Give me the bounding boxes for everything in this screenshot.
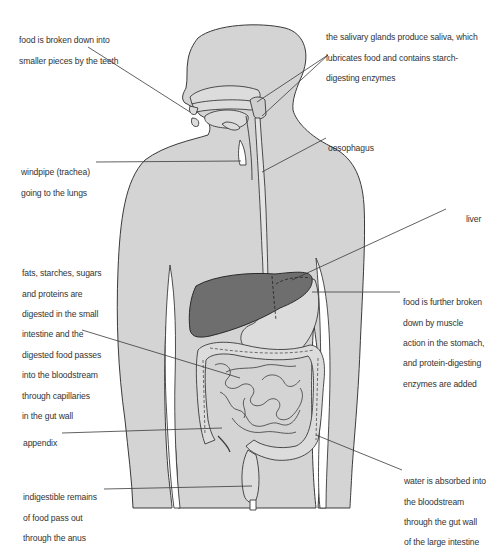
rectum xyxy=(242,450,259,502)
anal-canal xyxy=(250,500,256,510)
label-windpipe: windpipe (trachea) going to the lungs xyxy=(21,157,90,208)
label-large-intestine: water is absorbed into the bloodstream t… xyxy=(404,466,486,551)
label-oesophagus: oesophagus xyxy=(328,133,374,164)
lower-jaw xyxy=(191,118,198,127)
label-appendix: appendix xyxy=(23,428,57,459)
label-liver: liver xyxy=(466,204,481,235)
upper-teeth xyxy=(189,106,198,115)
label-small-intestine: fats, starches, sugars and proteins are … xyxy=(22,258,101,431)
label-stomach: food is further broken down by muscle ac… xyxy=(403,287,484,399)
label-teeth: food is broken down into smaller pieces … xyxy=(19,25,119,76)
label-anus: indigestible remains of food pass out th… xyxy=(23,482,97,551)
label-salivary-glands: the salivary glands produce saliva, whic… xyxy=(326,22,478,93)
